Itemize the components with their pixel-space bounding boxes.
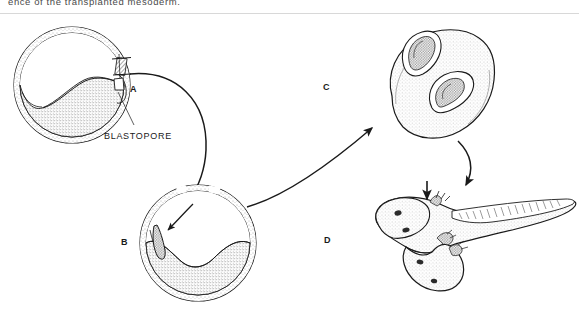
arrow-c-to-d: [458, 141, 471, 185]
label-b: B: [121, 237, 128, 247]
label-c: C: [323, 82, 330, 92]
horizontal-rule: [0, 13, 579, 14]
label-a: A: [130, 84, 137, 94]
figure-canvas: [0, 0, 579, 309]
label-d: D: [324, 235, 331, 245]
caption-fragment: ence of the transplanted mesoderm.: [8, 0, 181, 7]
arrow-b-to-c: [247, 128, 372, 207]
label-blastopore: BLASTOPORE: [104, 131, 172, 141]
panel-c-neurula: [390, 30, 494, 138]
blastopore-opening: [114, 78, 124, 90]
spemann-organizer-figure: ence of the transplanted mesoderm.: [0, 0, 579, 309]
panel-b-host-gastrula: [140, 185, 256, 301]
panel-d-conjoined-larva: [376, 181, 576, 291]
panel-a-donor-gastrula: [14, 27, 134, 143]
larva-primary-gills: [430, 191, 450, 206]
